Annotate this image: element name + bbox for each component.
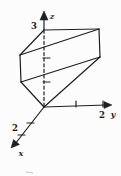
z-axis-label: z (49, 11, 55, 21)
x-axis-line (15, 107, 44, 144)
solid-top-edge-ab (44, 29, 99, 30)
solid-left-edge-ce (20, 55, 21, 82)
z-axis-arrowhead (40, 11, 48, 20)
y-axis-number-2: 2 (99, 110, 105, 120)
solid-mid-diagonal-ed (21, 57, 100, 82)
x-axis-label: x (18, 148, 24, 158)
solid-right-edge-bd (99, 29, 100, 57)
y-axis-arrowhead (104, 102, 112, 109)
figure-canvas: z32y2x (0, 0, 121, 176)
x-axis-number-2: 2 (12, 123, 18, 133)
solid-lower-edge-eo (21, 82, 44, 107)
scan-artifact-dash (26, 172, 33, 173)
z-axis-number-3: 3 (31, 21, 37, 31)
y-axis-label: y (110, 109, 117, 119)
solid-lower-edge-do (44, 57, 100, 107)
axes-solid-diagram: z32y2x (0, 0, 121, 176)
y-axis-line (44, 105, 106, 107)
